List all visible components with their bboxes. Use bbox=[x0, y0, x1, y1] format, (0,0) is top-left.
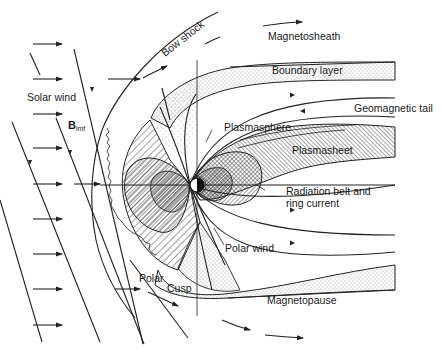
bow-shock-label: Bow shock bbox=[159, 17, 207, 58]
magnetosheath-label: Magnetosheath bbox=[268, 30, 341, 42]
radiation-belt-label-line1: Radiation belt and bbox=[286, 185, 371, 197]
magnetopause-label: Magnetopause bbox=[267, 294, 337, 306]
polar-wind-label: Polar wind bbox=[225, 242, 274, 254]
earth-icon bbox=[188, 176, 206, 194]
magnetosphere-diagram: Bow shock Magnetosheath Boundary layer G… bbox=[0, 0, 445, 356]
geomagnetic-tail-label: Geomagnetic tail bbox=[354, 102, 433, 114]
cusp-label: Cusp bbox=[167, 282, 192, 294]
solar-wind-label: Solar wind bbox=[27, 91, 76, 103]
plasmasphere-label: Plasmasphere bbox=[224, 121, 291, 133]
radiation-belt-label-line2: ring current bbox=[286, 197, 339, 209]
plasmasphere-leader bbox=[206, 130, 212, 142]
boundary-layer-label: Boundary layer bbox=[272, 64, 343, 76]
polar-label: Polar bbox=[139, 272, 164, 284]
plasmasheet-label: Plasmasheet bbox=[292, 144, 353, 156]
b-imf-label: Bimf bbox=[68, 119, 85, 132]
